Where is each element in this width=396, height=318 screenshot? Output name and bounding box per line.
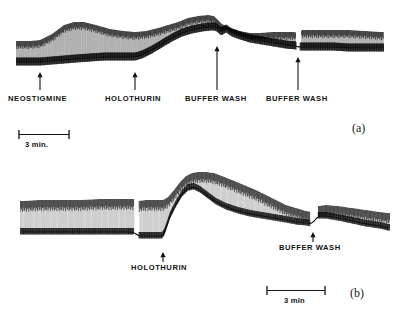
scale-bar-b-label: 3 min (284, 296, 305, 305)
panel-b-id: (b) (350, 286, 364, 301)
figure-recording-traces: NEOSTIGMINE HOLOTHURIN BUFFER WASH BUFFE… (0, 0, 396, 318)
panel-b-trace-svg (0, 160, 396, 318)
scale-bar-a-label: 3 min. (25, 140, 48, 149)
label-holothurin-a: HOLOTHURIN (105, 94, 161, 103)
panel-a: NEOSTIGMINE HOLOTHURIN BUFFER WASH BUFFE… (0, 0, 396, 160)
label-buffer-wash-a1: BUFFER WASH (185, 94, 247, 103)
panel-b: HOLOTHURIN BUFFER WASH 3 min (b) (0, 160, 396, 318)
panel-b-tonus-baseline (20, 160, 390, 318)
panel-a-event-arrows (37, 46, 300, 90)
label-buffer-wash-b: BUFFER WASH (279, 243, 341, 252)
label-holothurin-b: HOLOTHURIN (131, 263, 187, 272)
scale-bar-a (14, 128, 76, 140)
scale-bar-b (262, 284, 332, 296)
panel-b-contraction-envelope (20, 160, 390, 318)
label-buffer-wash-a2: BUFFER WASH (266, 94, 328, 103)
label-neostigmine: NEOSTIGMINE (8, 94, 67, 103)
panel-a-id: (a) (352, 121, 365, 136)
